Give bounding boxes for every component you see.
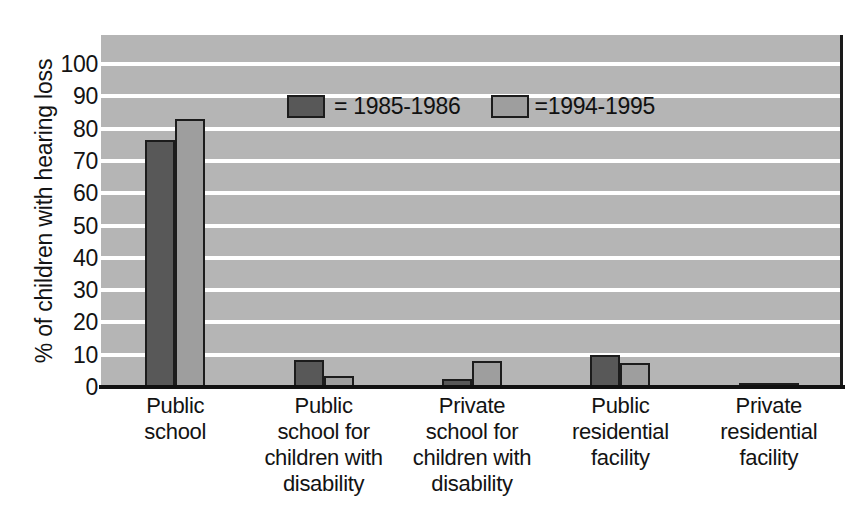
x-label-3: Publicresidentialfacility	[546, 393, 694, 471]
y-tick-90: 90	[46, 85, 98, 108]
y-tick-80: 80	[46, 117, 98, 140]
x-label-4: Privateresidentialfacility	[695, 393, 843, 471]
x-label-line: facility	[695, 445, 843, 471]
bar-series1-cat3	[620, 363, 650, 387]
legend-label-1985: = 1985-1986	[334, 95, 461, 118]
plot-area	[101, 35, 843, 387]
y-tick-20: 20	[46, 311, 98, 334]
legend-entry-1994: =1994-1995	[491, 95, 655, 118]
bars-layer	[101, 35, 840, 387]
x-label-line: children with	[249, 445, 397, 471]
chart-legend: = 1985-1986 =1994-1995	[287, 95, 655, 118]
y-tick-60: 60	[46, 182, 98, 205]
y-tick-50: 50	[46, 214, 98, 237]
y-axis-tick-labels: 1009080706050403020100	[46, 35, 98, 387]
x-axis-category-labels: PublicschoolPublicschool forchildren wit…	[101, 393, 843, 513]
x-label-1: Publicschool forchildren withdisability	[249, 393, 397, 497]
legend-swatch-1994	[491, 95, 529, 118]
x-label-2: Privateschool forchildren withdisability	[398, 393, 546, 497]
y-tick-70: 70	[46, 149, 98, 172]
x-label-line: children with	[398, 445, 546, 471]
x-axis-line	[99, 385, 845, 389]
bar-series0-cat0	[145, 140, 175, 387]
x-label-line: residential	[546, 419, 694, 445]
x-label-line: disability	[398, 471, 546, 497]
x-label-line: school for	[398, 419, 546, 445]
x-label-line: Public	[249, 393, 397, 419]
legend-entry-1985: = 1985-1986	[287, 95, 461, 118]
legend-label-1994: =1994-1995	[535, 95, 655, 118]
x-label-line: residential	[695, 419, 843, 445]
x-label-line: Public	[546, 393, 694, 419]
y-tick-30: 30	[46, 279, 98, 302]
x-label-line: Private	[398, 393, 546, 419]
x-label-line: Private	[695, 393, 843, 419]
bar-series0-cat3	[590, 355, 620, 387]
x-label-line: disability	[249, 471, 397, 497]
x-label-line: Public	[101, 393, 249, 419]
bar-series1-cat0	[175, 119, 205, 387]
x-label-line: school for	[249, 419, 397, 445]
y-tick-40: 40	[46, 246, 98, 269]
y-tick-100: 100	[46, 53, 98, 76]
bar-chart: % of children with hearing loss 10090807…	[0, 0, 862, 520]
bar-series1-cat2	[472, 361, 502, 387]
x-label-line: facility	[546, 445, 694, 471]
y-tick-10: 10	[46, 343, 98, 366]
y-tick-0: 0	[46, 376, 98, 399]
x-label-line: school	[101, 419, 249, 445]
x-label-0: Publicschool	[101, 393, 249, 445]
bar-series0-cat1	[294, 360, 324, 387]
legend-swatch-1985	[287, 95, 325, 118]
